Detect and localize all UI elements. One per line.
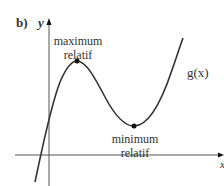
y-axis-label: y — [38, 16, 44, 29]
minimum-label: minimum relatif — [105, 132, 165, 160]
function-label: g(x) — [187, 66, 209, 79]
minimum-label-line2: relatif — [105, 146, 165, 160]
maximum-label: maximum relatif — [48, 34, 108, 62]
x-axis-arrow-icon — [218, 153, 224, 158]
maximum-label-line1: maximum — [48, 34, 108, 48]
minimum-point — [132, 124, 137, 129]
maximum-label-line2: relatif — [48, 48, 108, 62]
y-axis-arrow-icon — [47, 18, 52, 25]
part-label: b) — [16, 16, 28, 29]
x-axis-label: x — [220, 159, 224, 170]
minimum-label-line1: minimum — [105, 132, 165, 146]
